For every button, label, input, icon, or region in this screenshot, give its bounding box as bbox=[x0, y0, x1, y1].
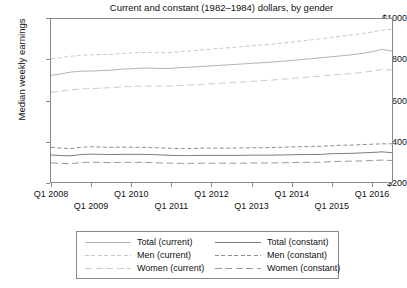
x-tick-label: Q1 2008 bbox=[34, 189, 69, 199]
x-tick-mark bbox=[51, 183, 52, 187]
legend-label: Men (current) bbox=[137, 249, 191, 262]
series-line bbox=[51, 29, 392, 59]
x-tick-mark bbox=[211, 183, 212, 187]
x-tick-label: Q1 2013 bbox=[234, 201, 269, 211]
x-tick-mark bbox=[91, 183, 92, 187]
series-line bbox=[51, 49, 392, 75]
chart-container: Current and constant (1982–1984) dollars… bbox=[0, 0, 407, 288]
x-tick-label: Q1 2014 bbox=[274, 189, 309, 199]
y-axis-title: Median weekly earnings bbox=[16, 5, 27, 135]
y-tick-mark bbox=[46, 183, 50, 184]
legend-swatch bbox=[215, 242, 261, 243]
x-tick-label: Q1 2012 bbox=[194, 189, 229, 199]
series-line bbox=[51, 160, 392, 164]
x-tick-mark bbox=[292, 183, 293, 187]
chart-legend: Total (current)Men (current)Women (curre… bbox=[76, 231, 339, 279]
x-tick-label: Q1 2009 bbox=[74, 201, 109, 211]
legend-label: Women (current) bbox=[137, 262, 204, 275]
series-line bbox=[51, 70, 392, 93]
series-line bbox=[51, 152, 392, 156]
x-tick-mark bbox=[372, 183, 373, 187]
legend-label: Total (constant) bbox=[267, 236, 329, 249]
legend-swatch bbox=[85, 255, 131, 256]
x-tick-label: Q1 2011 bbox=[154, 201, 188, 211]
series-lines bbox=[50, 18, 393, 183]
chart-title: Current and constant (1982–1984) dollars… bbox=[50, 2, 393, 13]
legend-label: Women (constant) bbox=[267, 262, 340, 275]
x-tick-mark bbox=[171, 183, 172, 187]
legend-swatch bbox=[85, 268, 131, 269]
legend-swatch bbox=[215, 268, 261, 269]
legend-swatch bbox=[85, 242, 131, 243]
x-tick-label: Q1 2016 bbox=[355, 189, 390, 199]
x-tick-mark bbox=[131, 183, 132, 187]
series-line bbox=[51, 144, 392, 149]
x-tick-mark bbox=[332, 183, 333, 187]
x-tick-label: Q1 2010 bbox=[114, 189, 149, 199]
x-tick-label: Q1 2015 bbox=[315, 201, 350, 211]
legend-label: Total (current) bbox=[137, 236, 193, 249]
x-tick-mark bbox=[252, 183, 253, 187]
legend-label: Men (constant) bbox=[267, 249, 327, 262]
legend-swatch bbox=[215, 255, 261, 256]
